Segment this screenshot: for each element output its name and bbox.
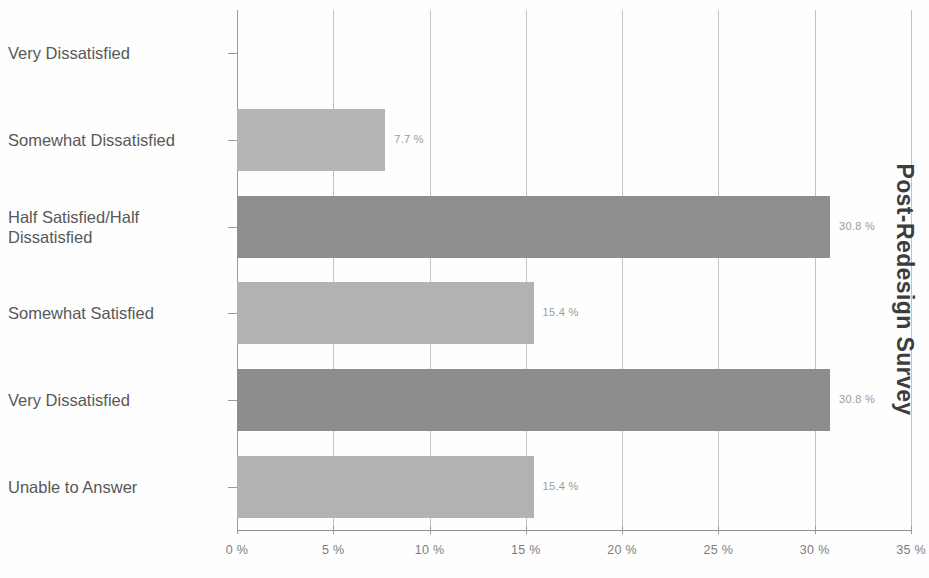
bar-value-label: 15.4 % xyxy=(543,306,579,318)
bar xyxy=(237,456,534,518)
bar xyxy=(237,109,385,171)
bar-value-label: 15.4 % xyxy=(543,480,579,492)
bar-value-label: 7.7 % xyxy=(394,133,424,145)
x-axis-tick-label: 5 % xyxy=(322,543,344,557)
category-label: Half Satisfied/Half Dissatisfied xyxy=(8,207,233,247)
category-label: Somewhat Dissatisfied xyxy=(8,130,233,150)
plot-area xyxy=(237,10,911,530)
x-axis-tick xyxy=(333,526,334,534)
x-axis-tick-label: 15 % xyxy=(511,543,541,557)
chart-title: Post-Redesign Survey xyxy=(881,0,927,578)
x-axis-tick xyxy=(718,526,719,534)
x-axis-tick-label: 20 % xyxy=(607,543,637,557)
category-label: Somewhat Satisfied xyxy=(8,303,233,323)
chart-title-text: Post-Redesign Survey xyxy=(891,163,918,415)
gridline xyxy=(815,10,816,530)
chart-page: 7.7 %30.8 %15.4 %30.8 %15.4 % Very Dissa… xyxy=(0,0,929,578)
gridline xyxy=(718,10,719,530)
x-axis-tick-label: 30 % xyxy=(800,543,830,557)
gridline xyxy=(430,10,431,530)
bar xyxy=(237,196,830,258)
gridline xyxy=(526,10,527,530)
gridline xyxy=(333,10,334,530)
gridline xyxy=(622,10,623,530)
x-axis-tick-label: 25 % xyxy=(704,543,734,557)
x-axis-tick xyxy=(526,526,527,534)
x-axis-tick xyxy=(622,526,623,534)
x-axis-tick xyxy=(237,526,238,534)
bar xyxy=(237,282,534,344)
bar-value-label: 30.8 % xyxy=(839,393,875,405)
x-axis-tick-label: 10 % xyxy=(415,543,445,557)
category-label: Very Dissatisfied xyxy=(8,43,233,63)
x-axis-tick-label: 0 % xyxy=(226,543,248,557)
gridline xyxy=(237,10,238,530)
category-label: Very Dissatisfied xyxy=(8,390,233,410)
x-axis-line xyxy=(237,530,911,531)
bar-value-label: 30.8 % xyxy=(839,220,875,232)
x-axis-tick xyxy=(430,526,431,534)
x-axis-tick xyxy=(815,526,816,534)
category-label: Unable to Answer xyxy=(8,477,233,497)
bar xyxy=(237,369,830,431)
